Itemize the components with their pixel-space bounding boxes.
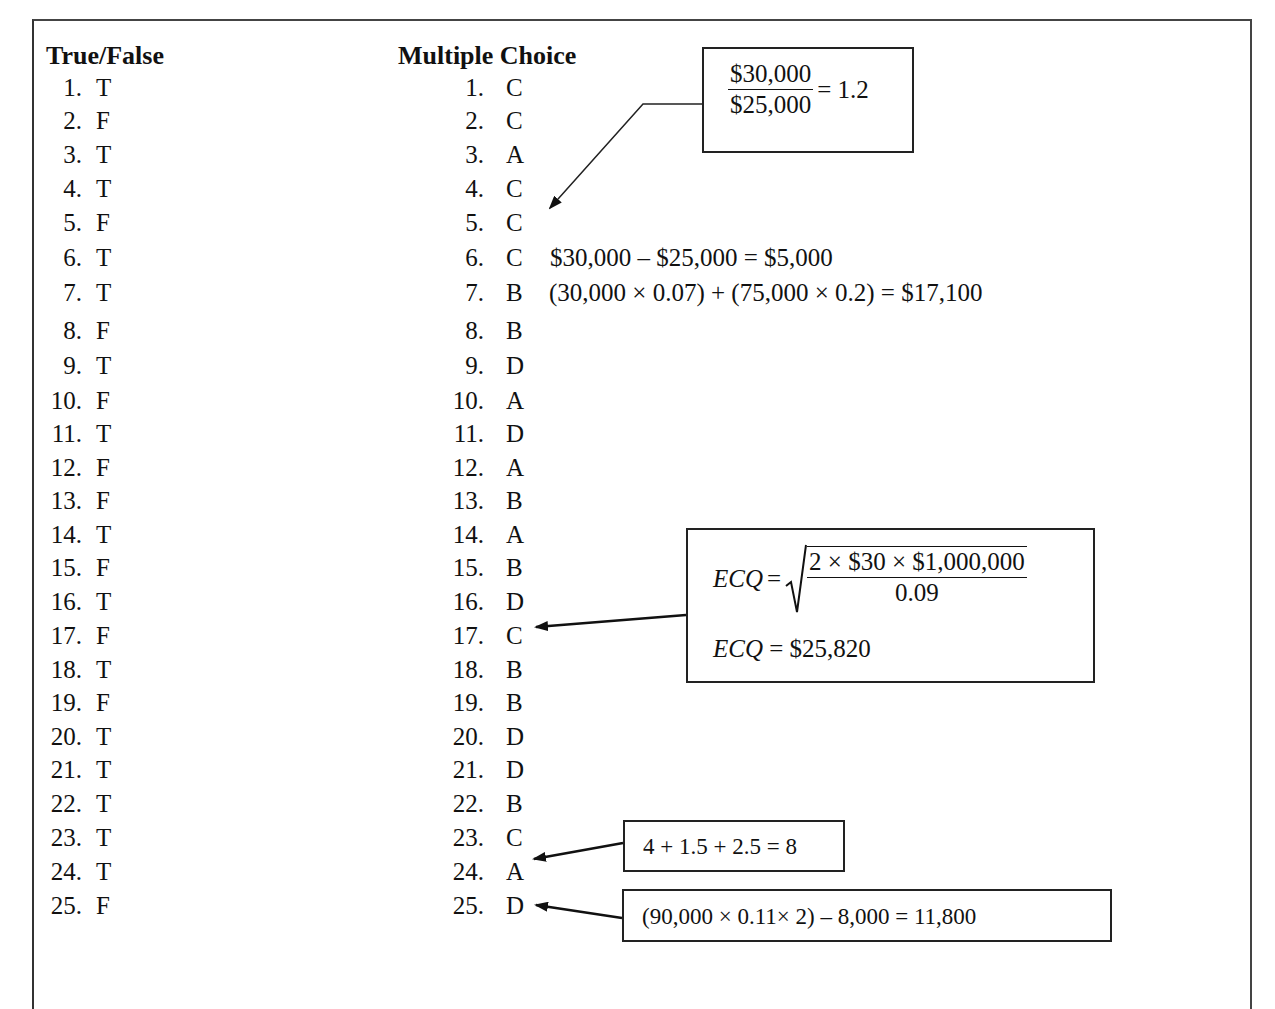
ecq-result-value: = $25,820 — [769, 635, 871, 662]
question-number: 9. — [30, 351, 82, 381]
multiple-choice-item: 14.A — [400, 520, 484, 550]
true-false-item: 15.F — [30, 553, 82, 583]
answer-letter: T — [96, 73, 111, 103]
answer-letter: T — [96, 419, 111, 449]
question-number: 3. — [400, 140, 484, 170]
answer-letter: T — [96, 520, 111, 550]
true-false-item: 5.F — [30, 208, 82, 238]
multiple-choice-item: 23.C — [400, 823, 484, 853]
question-number: 23. — [30, 823, 82, 853]
answer-letter: C — [506, 621, 523, 651]
answer-letter: T — [96, 789, 111, 819]
multiple-choice-item: 20.D — [400, 722, 484, 752]
true-false-item: 16.T — [30, 587, 82, 617]
answer-letter: D — [506, 351, 524, 381]
true-false-item: 25.F — [30, 891, 82, 921]
question-number: 7. — [30, 278, 82, 308]
q25-box: (90,000 × 0.11× 2) – 8,000 = 11,800 — [622, 889, 1112, 942]
ratio-denominator: $25,000 — [730, 90, 811, 120]
question-number: 5. — [30, 208, 82, 238]
sqrt-radical-icon — [785, 544, 807, 614]
question-number: 20. — [30, 722, 82, 752]
multiple-choice-item: 5.C — [400, 208, 484, 238]
true-false-item: 11.T — [30, 419, 82, 449]
multiple-choice-item: 8.B — [400, 316, 484, 346]
answer-letter: B — [506, 688, 523, 718]
true-false-item: 23.T — [30, 823, 82, 853]
ecq-result-label: ECQ — [713, 635, 763, 662]
question-number: 8. — [400, 316, 484, 346]
ratio-fraction: $30,000 $25,000 — [728, 59, 813, 120]
answer-letter: F — [96, 386, 110, 416]
multiple-choice-item: 9.D — [400, 351, 484, 381]
question-number: 13. — [400, 486, 484, 516]
question-number: 20. — [400, 722, 484, 752]
answer-letter: D — [506, 891, 524, 921]
answer-letter: F — [96, 453, 110, 483]
answer-letter: B — [506, 553, 523, 583]
true-false-item: 21.T — [30, 755, 82, 785]
answer-letter: C — [506, 73, 523, 103]
question-number: 22. — [400, 789, 484, 819]
multiple-choice-item: 10.A — [400, 386, 484, 416]
ecq-sqrt: 2 × $30 × $1,000,000 0.09 — [785, 544, 1027, 614]
question-number: 1. — [400, 73, 484, 103]
question-number: 18. — [30, 655, 82, 685]
true-false-item: 13.F — [30, 486, 82, 516]
answer-letter: F — [96, 316, 110, 346]
multiple-choice-item: 19.B — [400, 688, 484, 718]
answer-letter: C — [506, 174, 523, 204]
answer-letter: A — [506, 140, 524, 170]
true-false-item: 12.F — [30, 453, 82, 483]
answer-letter: B — [506, 655, 523, 685]
question-number: 17. — [30, 621, 82, 651]
answer-letter: T — [96, 243, 111, 273]
question-number: 3. — [30, 140, 82, 170]
answer-letter: D — [506, 587, 524, 617]
true-false-item: 18.T — [30, 655, 82, 685]
multiple-choice-item: 15.B — [400, 553, 484, 583]
question-number: 15. — [400, 553, 484, 583]
true-false-item: 14.T — [30, 520, 82, 550]
question-number: 25. — [400, 891, 484, 921]
answer-letter: B — [506, 789, 523, 819]
question-number: 23. — [400, 823, 484, 853]
true-false-item: 2.F — [30, 106, 82, 136]
true-false-item: 10.F — [30, 386, 82, 416]
question-number: 6. — [400, 243, 484, 273]
answer-letter: T — [96, 857, 111, 887]
answer-letter: T — [96, 278, 111, 308]
ecq-label: ECQ — [713, 565, 763, 593]
multiple-choice-item: 12.A — [400, 453, 484, 483]
question-number: 24. — [30, 857, 82, 887]
q5-ratio-box: $30,000 $25,000 = 1.2 — [702, 47, 914, 153]
answer-letter: B — [506, 278, 523, 308]
question-number: 11. — [30, 419, 82, 449]
question-number: 10. — [400, 386, 484, 416]
question-number: 18. — [400, 655, 484, 685]
multiple-choice-item: 1.C — [400, 73, 484, 103]
question-number: 4. — [400, 174, 484, 204]
multiple-choice-heading: Multiple Choice — [398, 41, 576, 71]
answer-letter: B — [506, 316, 523, 346]
question-number: 5. — [400, 208, 484, 238]
question-number: 21. — [30, 755, 82, 785]
answer-letter: C — [506, 823, 523, 853]
ratio-result: = 1.2 — [817, 76, 869, 104]
question-number: 4. — [30, 174, 82, 204]
true-false-item: 8.F — [30, 316, 82, 346]
answer-letter: C — [506, 106, 523, 136]
q25-equation: (90,000 × 0.11× 2) – 8,000 = 11,800 — [642, 902, 976, 932]
answer-letter: F — [96, 891, 110, 921]
multiple-choice-item: 13.B — [400, 486, 484, 516]
answer-letter: D — [506, 722, 524, 752]
answer-letter: T — [96, 587, 111, 617]
question-number: 19. — [30, 688, 82, 718]
ecq-radicand: 2 × $30 × $1,000,000 0.09 — [807, 546, 1027, 608]
question-number: 14. — [30, 520, 82, 550]
question-number: 8. — [30, 316, 82, 346]
ecq-equals: = — [767, 565, 781, 593]
question-number: 21. — [400, 755, 484, 785]
question-number: 12. — [400, 453, 484, 483]
true-false-heading: True/False — [46, 41, 164, 71]
